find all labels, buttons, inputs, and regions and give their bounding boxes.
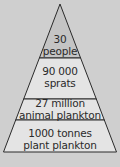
- level-1-label: 30 people: [0, 33, 120, 57]
- level-4-count: 1000 tonnes: [0, 127, 120, 139]
- level-2-count: 90 000: [0, 65, 120, 77]
- level-4-organism: plant plankton: [0, 139, 120, 151]
- level-2-organism: sprats: [0, 77, 120, 89]
- level-1-organism: people: [0, 45, 120, 57]
- level-3-organism: animal plankton: [0, 109, 120, 121]
- level-4-label: 1000 tonnes plant plankton: [0, 127, 120, 151]
- level-1-count: 30: [0, 33, 120, 45]
- level-2-label: 90 000 sprats: [0, 65, 120, 89]
- level-3-count: 27 million: [0, 97, 120, 109]
- food-pyramid-diagram: 30 people 90 000 sprats 27 million anima…: [0, 0, 120, 167]
- level-3-label: 27 million animal plankton: [0, 97, 120, 121]
